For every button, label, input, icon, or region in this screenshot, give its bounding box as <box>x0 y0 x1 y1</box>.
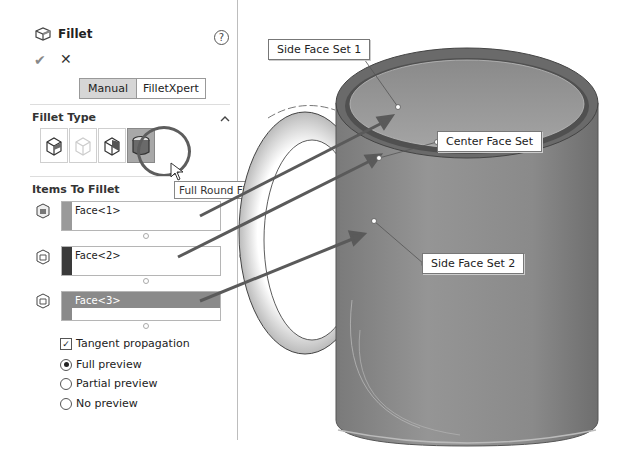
graphics-viewport[interactable] <box>0 0 627 464</box>
callout-side-face-set-1: Side Face Set 1 <box>268 39 370 60</box>
callout-center-face-set: Center Face Set <box>437 131 542 152</box>
mug-body <box>336 48 598 446</box>
callout-side-face-set-2: Side Face Set 2 <box>422 253 524 274</box>
